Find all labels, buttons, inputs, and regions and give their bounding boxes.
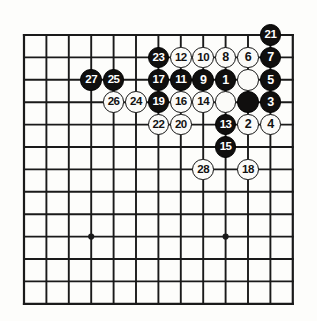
- go-stone-black: [237, 91, 259, 113]
- stone-move-number: 8: [222, 51, 228, 64]
- stone-move-number: 27: [85, 74, 97, 86]
- go-stone-move-15: 15: [215, 136, 237, 158]
- stone-move-number: 24: [130, 96, 142, 108]
- stone-move-number: 7: [267, 51, 273, 64]
- stone-move-number: 2: [245, 118, 251, 131]
- go-stone-move-13: 13: [215, 114, 237, 136]
- go-stone-move-1: 1: [215, 69, 237, 91]
- stone-move-number: 18: [242, 163, 254, 175]
- stone-move-number: 25: [108, 74, 120, 86]
- go-stone-move-3: 3: [260, 91, 282, 113]
- go-stone-move-11: 11: [170, 69, 192, 91]
- stone-move-number: 13: [220, 119, 232, 131]
- stone-move-number: 1: [222, 73, 228, 86]
- stone-move-number: 20: [175, 119, 187, 131]
- go-stone-move-19: 19: [148, 91, 170, 113]
- go-stone-move-22: 22: [148, 114, 170, 136]
- stone-move-number: 21: [264, 29, 276, 41]
- go-stone-move-21: 21: [260, 24, 282, 46]
- stone-move-number: 16: [175, 96, 187, 108]
- go-stone-move-4: 4: [260, 114, 282, 136]
- stone-move-number: 3: [267, 96, 273, 109]
- go-stone-move-20: 20: [170, 114, 192, 136]
- stone-move-number: 19: [152, 96, 164, 108]
- stone-move-number: 12: [175, 51, 187, 63]
- go-stone-move-28: 28: [192, 159, 214, 181]
- stone-move-number: 26: [108, 96, 120, 108]
- go-stone-move-17: 17: [148, 69, 170, 91]
- stone-move-number: 15: [220, 141, 232, 153]
- go-stone-move-25: 25: [103, 69, 125, 91]
- stone-move-number: 9: [200, 73, 206, 86]
- go-stone-move-5: 5: [260, 69, 282, 91]
- go-stone-move-10: 10: [192, 47, 214, 69]
- go-stone-move-23: 23: [148, 47, 170, 69]
- stone-move-number: 4: [267, 118, 273, 131]
- go-stone-move-16: 16: [170, 91, 192, 113]
- stone-move-number: 23: [152, 51, 164, 63]
- go-stone-move-7: 7: [260, 47, 282, 69]
- go-stone-move-12: 12: [170, 47, 192, 69]
- go-stone-move-24: 24: [125, 91, 147, 113]
- stone-move-number: 14: [197, 96, 209, 108]
- go-stone-move-9: 9: [192, 69, 214, 91]
- go-stone-move-26: 26: [103, 91, 125, 113]
- stone-move-number: 28: [197, 163, 209, 175]
- stone-move-number: 10: [197, 51, 209, 63]
- stone-move-number: 22: [152, 119, 164, 131]
- stone-move-number: 17: [152, 74, 164, 86]
- go-board-diagram: 2123121086727251711915262419161432220132…: [0, 0, 317, 321]
- go-stone-move-2: 2: [237, 114, 259, 136]
- stone-move-number: 5: [267, 73, 273, 86]
- go-stone-move-14: 14: [192, 91, 214, 113]
- go-stone-move-27: 27: [80, 69, 102, 91]
- go-stone-move-6: 6: [237, 47, 259, 69]
- go-stone-move-18: 18: [237, 159, 259, 181]
- go-stone-white: [215, 91, 237, 113]
- stone-move-number: 6: [245, 51, 251, 64]
- stone-move-number: 11: [175, 74, 186, 86]
- go-stone-white: [237, 69, 259, 91]
- go-stone-move-8: 8: [215, 47, 237, 69]
- stone-layer: 2123121086727251711915262419161432220132…: [0, 0, 317, 321]
